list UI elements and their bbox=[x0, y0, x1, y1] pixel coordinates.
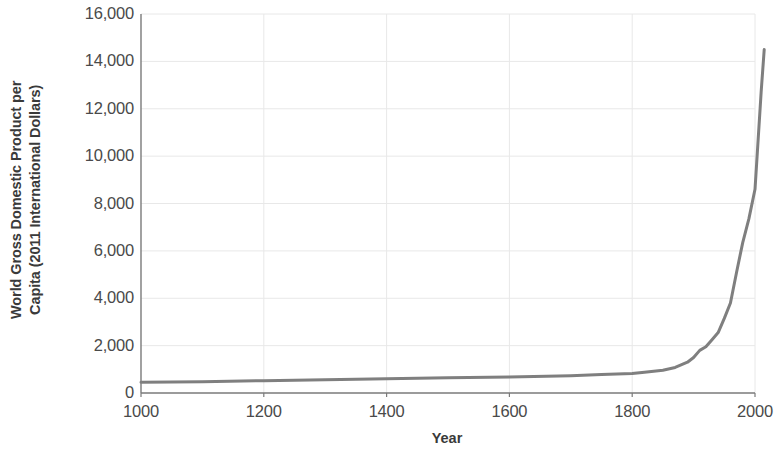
x-tick-label: 1000 bbox=[101, 403, 181, 420]
x-tick-label: 1600 bbox=[469, 403, 549, 420]
horizontal-gridlines bbox=[141, 14, 755, 346]
x-tick-label: 2000 bbox=[715, 403, 778, 420]
x-axis-title: Year bbox=[141, 430, 753, 446]
x-axis-tick-labels: 100012001400160018002000 bbox=[0, 403, 772, 429]
x-tick-label: 1400 bbox=[347, 403, 427, 420]
x-tick-label: 1200 bbox=[224, 403, 304, 420]
x-tick-label: 1800 bbox=[592, 403, 672, 420]
data-series-line bbox=[141, 50, 764, 383]
